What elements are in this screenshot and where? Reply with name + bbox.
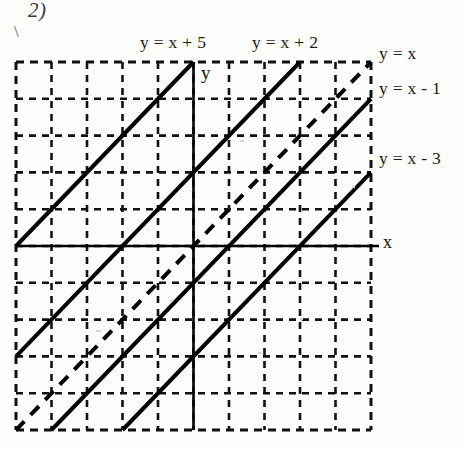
function-line xyxy=(123,172,372,430)
coordinate-plot xyxy=(0,0,465,451)
paper-speck xyxy=(240,140,244,142)
function-line xyxy=(16,62,194,246)
paper-speck xyxy=(258,352,262,354)
paper-speck xyxy=(170,300,173,302)
function-line xyxy=(52,99,372,430)
paper-speck xyxy=(300,318,303,320)
paper-speck xyxy=(352,186,355,188)
axes-group xyxy=(16,62,379,430)
worksheet-page: 2) \ y = x + 5 y = x + 2 y = x y = x - 1… xyxy=(0,0,465,451)
paper-speck xyxy=(96,330,101,332)
